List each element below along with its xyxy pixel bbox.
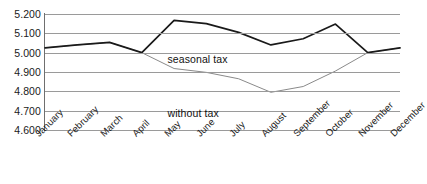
y-axis-tick-label: 4.900 — [14, 66, 41, 78]
gridline — [45, 72, 400, 73]
y-axis-tick-label: 5.000 — [14, 47, 41, 59]
gridline — [45, 14, 400, 15]
gridline — [45, 33, 400, 34]
series-label: seasonal tax — [167, 53, 227, 65]
series-line — [45, 42, 400, 92]
y-axis-tick-label: 4.800 — [14, 85, 41, 97]
y-axis-tick-label: 5.100 — [14, 27, 41, 39]
gridline — [45, 91, 400, 92]
y-axis-tick-label: 5.200 — [14, 8, 41, 20]
series-line — [45, 20, 400, 52]
y-axis: 5.2005.1005.0004.9004.8004.7004.600 — [0, 0, 41, 184]
y-axis-tick-label: 4.700 — [14, 105, 41, 117]
x-axis: JanuaryFebruaryMarchAprilMayJuneJulyAugu… — [45, 131, 400, 184]
